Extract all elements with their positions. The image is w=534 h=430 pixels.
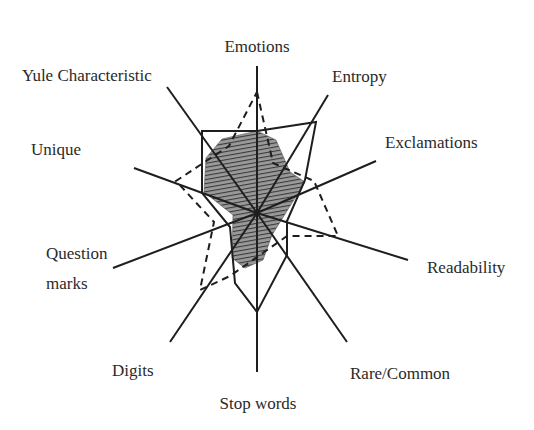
axis-label-line2: marks <box>46 274 88 293</box>
axis-label: Entropy <box>332 67 387 86</box>
axis-label: Yule Characteristic <box>22 66 152 85</box>
axis-lines <box>113 66 408 372</box>
axis-label: Digits <box>112 361 154 380</box>
axis-label: Readability <box>427 258 506 277</box>
axis-line-4 <box>257 213 347 342</box>
axis-label: Emotions <box>224 37 289 56</box>
axis-label: Stop words <box>220 394 297 413</box>
axis-label: Question <box>46 244 108 263</box>
radar-chart: EmotionsEntropyExclamationsReadabilityRa… <box>0 0 534 430</box>
axis-line-6 <box>170 213 257 342</box>
axis-label: Unique <box>31 140 81 159</box>
axis-label: Exclamations <box>385 133 478 152</box>
axis-label: Rare/Common <box>350 364 451 383</box>
